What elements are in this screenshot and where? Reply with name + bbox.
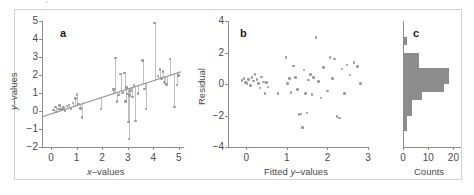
x-ticklabel-c: 20 <box>443 152 463 163</box>
x-axis-c <box>403 147 461 148</box>
histogram-bar <box>404 60 419 68</box>
histogram-bar <box>404 100 412 108</box>
histogram-bar <box>404 116 407 124</box>
histogram-bar <box>404 123 407 131</box>
histogram-bar <box>404 76 449 84</box>
figure-frame: −2−1012345012345ax–valuesy–values −4−202… <box>14 9 462 180</box>
panel-c: 01020cCounts <box>15 10 463 181</box>
panel-letter-c: c <box>413 27 419 39</box>
x-tick-c <box>403 147 404 150</box>
histogram-bar <box>404 53 419 61</box>
x-tick-c <box>428 147 429 150</box>
clipped-text-row: —— —— , ————— — —— — — <box>0 0 474 7</box>
histogram-bar <box>404 37 407 45</box>
clipped-text: —— —— , ————— — —— — — <box>2 0 157 4</box>
x-ticklabel-c: 10 <box>418 152 438 163</box>
histogram-bar <box>404 108 412 116</box>
histogram-bar <box>404 84 444 92</box>
x-tick-c <box>453 147 454 150</box>
x-axis-title-c: Counts <box>414 166 444 177</box>
x-ticklabel-c: 0 <box>393 152 413 163</box>
histogram-bar <box>404 92 422 100</box>
histogram-bar <box>404 68 449 76</box>
